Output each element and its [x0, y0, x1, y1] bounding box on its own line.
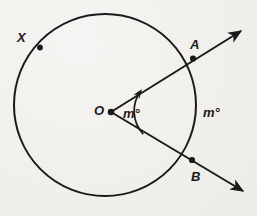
label-central-angle-measure: m° [123, 107, 140, 120]
label-point-b: B [191, 170, 200, 183]
center-point-dot [108, 109, 115, 116]
point-a-dot [190, 55, 196, 61]
label-point-x: X [17, 31, 26, 44]
point-x-dot [37, 45, 43, 51]
label-point-a: A [190, 38, 199, 51]
point-b-dot [189, 157, 195, 163]
ray-to-b [111, 112, 243, 191]
circle-outline [14, 14, 196, 196]
geometry-figure: X A B O m° m° [0, 0, 257, 216]
label-arc-measure: m° [203, 106, 220, 119]
ray-to-a [111, 31, 241, 112]
label-center-o: O [94, 104, 104, 117]
